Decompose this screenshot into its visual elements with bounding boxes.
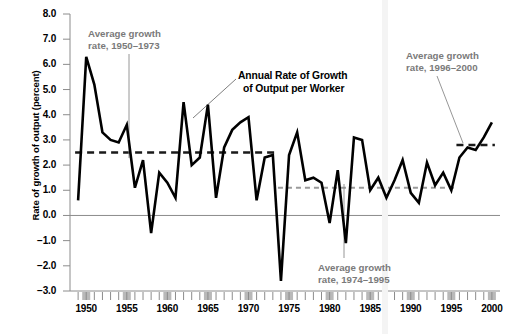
y-tick-label-4: 4.0 xyxy=(22,109,56,120)
figure-container: Rate of growth of output (percent) Annua… xyxy=(0,0,511,334)
chart-title-line2: of Output per Worker xyxy=(243,82,344,95)
y-tick-label-3: 5.0 xyxy=(22,84,56,95)
x-tick-label-8: 1990 xyxy=(391,303,431,314)
y-tick-label-10: −2.0 xyxy=(22,260,56,271)
annotation-1950-1973-line2: rate, 1950–1973 xyxy=(88,40,160,52)
y-tick-label-9: −1.0 xyxy=(22,235,56,246)
y-tick-label-1: 7.0 xyxy=(22,33,56,44)
x-tick-label-10: 2000 xyxy=(472,303,511,314)
annotation-1996-2000-line1: Average growth xyxy=(406,50,479,62)
y-tick-label-6: 2.0 xyxy=(22,159,56,170)
x-tick-label-3: 1965 xyxy=(188,303,228,314)
x-tick-label-6: 1980 xyxy=(310,303,350,314)
leader-chart-title xyxy=(193,79,236,118)
x-tick-label-4: 1970 xyxy=(228,303,268,314)
x-tick-label-5: 1975 xyxy=(269,303,309,314)
annotation-1950-1973-line1: Average growth xyxy=(88,28,161,40)
x-tick-label-1: 1955 xyxy=(107,303,147,314)
y-tick-label-8: 0.0 xyxy=(22,209,56,220)
x-tick-label-7: 1985 xyxy=(350,303,390,314)
x-tick-label-2: 1960 xyxy=(147,303,187,314)
y-tick-label-11: −3.0 xyxy=(22,285,56,296)
y-tick-label-2: 6.0 xyxy=(22,58,56,69)
x-tick-label-0: 1950 xyxy=(66,303,106,314)
y-tick-label-5: 3.0 xyxy=(22,134,56,145)
annotation-1996-2000-line2: rate, 1996–2000 xyxy=(406,62,478,74)
chart-title-line1: Annual Rate of Growth xyxy=(238,69,347,82)
leader-1996-2000 xyxy=(437,76,463,143)
y-tick-label-0: 8.0 xyxy=(22,8,56,19)
annotation-1974-1995-line2: rate, 1974–1995 xyxy=(318,274,390,286)
annotation-1974-1995-line1: Average growth xyxy=(318,262,391,274)
x-tick-label-9: 1995 xyxy=(431,303,471,314)
y-tick-label-7: 1.0 xyxy=(22,184,56,195)
